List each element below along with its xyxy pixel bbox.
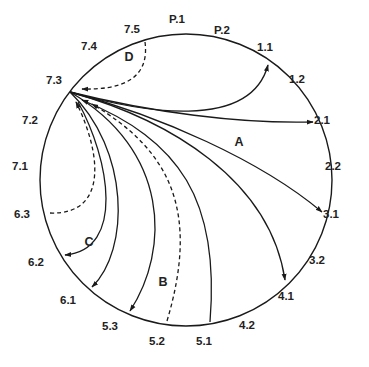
edge-7-3-to-2-1 (70, 92, 313, 122)
node-label-1-1: 1.1 (257, 41, 274, 53)
node-label-2-1: 2.1 (314, 114, 331, 126)
node-label-7-2: 7.2 (22, 114, 38, 126)
region-label-d: D (124, 50, 133, 64)
node-labels-group: P.1P.21.11.22.12.23.13.24.14.25.15.25.36… (12, 13, 341, 347)
region-label-a: A (234, 135, 243, 149)
node-label-P-1: P.1 (169, 13, 185, 25)
edge-5-1-to-7-3 (82, 100, 211, 322)
edges-group (50, 42, 322, 322)
region-label-c: C (84, 235, 93, 249)
circular-flow-diagram: P.1P.21.11.22.12.23.13.24.14.25.15.25.36… (0, 0, 369, 367)
node-label-6-2: 6.2 (28, 256, 44, 268)
region-label-b: B (158, 275, 167, 289)
node-label-P-2: P.2 (214, 24, 230, 36)
edge-7-3-to-1-1 (70, 65, 268, 111)
node-label-4-2: 4.2 (239, 319, 255, 331)
node-label-5-3: 5.3 (102, 320, 118, 332)
node-label-1-2: 1.2 (289, 73, 305, 85)
edge-7-3-to-6-2 (65, 102, 106, 255)
edge-7-3-to-5-3 (70, 92, 155, 311)
region-labels-group: ABCD (84, 50, 243, 289)
edge-7-3-to-6-1 (70, 92, 118, 287)
node-label-7-4: 7.4 (81, 40, 98, 52)
node-label-5-2: 5.2 (149, 335, 165, 347)
edge-6-3-to-7-3 (50, 102, 95, 213)
node-label-3-1: 3.1 (323, 208, 340, 220)
node-label-6-1: 6.1 (60, 294, 77, 306)
node-label-5-1: 5.1 (196, 335, 213, 347)
node-label-4-1: 4.1 (278, 290, 295, 302)
node-label-2-2: 2.2 (325, 160, 341, 172)
node-label-7-3: 7.3 (46, 74, 62, 86)
node-label-7-1: 7.1 (12, 160, 29, 172)
node-label-7-5: 7.5 (124, 23, 141, 35)
node-label-6-3: 6.3 (14, 208, 30, 220)
node-label-3-2: 3.2 (309, 254, 325, 266)
